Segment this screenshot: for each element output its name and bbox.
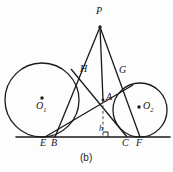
point-a bbox=[102, 99, 105, 102]
label-e: E bbox=[40, 138, 46, 148]
center-o2-dot bbox=[137, 105, 140, 108]
figure-caption: (b) bbox=[80, 153, 92, 163]
label-p: P bbox=[96, 6, 102, 16]
label-o1: O1 bbox=[36, 101, 46, 114]
label-o2: O2 bbox=[143, 101, 153, 114]
label-b: B bbox=[51, 138, 57, 148]
segment-p-f bbox=[100, 27, 140, 137]
segment-p-a bbox=[100, 27, 103, 100]
label-f: F bbox=[136, 138, 142, 148]
label-h-point: H bbox=[80, 64, 87, 74]
segment-p-b bbox=[55, 27, 100, 137]
label-a: A bbox=[106, 92, 112, 102]
label-height-h: h bbox=[99, 124, 103, 133]
label-o2-sub: 2 bbox=[150, 106, 153, 113]
geometry-figure: P H G A E B C F h O1 O2 (b) bbox=[0, 0, 173, 172]
label-o1-sub: 1 bbox=[43, 106, 46, 113]
label-g: G bbox=[119, 65, 126, 75]
point-p bbox=[98, 25, 101, 28]
label-c: C bbox=[122, 138, 129, 148]
figure-canvas bbox=[0, 0, 173, 172]
